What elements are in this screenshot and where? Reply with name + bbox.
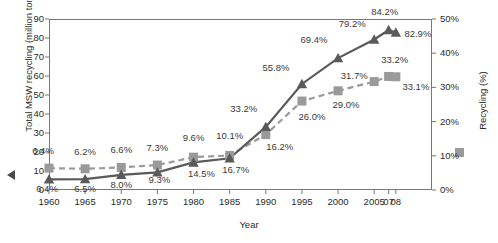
msw-recycling-data-label: 9.3% bbox=[139, 174, 179, 185]
msw-recycling-data-label: 82.9% bbox=[398, 28, 438, 39]
msw-recycling-data-label: 6.4% bbox=[27, 183, 67, 194]
msw-recycling-data-label: 55.8% bbox=[256, 62, 296, 73]
recycling-percent-data-label: 6.4% bbox=[23, 145, 63, 156]
msw-recycling-data-label: 6.5% bbox=[65, 183, 105, 194]
recycling-percent-data-label: 16.2% bbox=[260, 141, 300, 152]
msw-recycling-data-label: 8.0% bbox=[101, 179, 141, 190]
recycling-percent-data-label: 31.7% bbox=[334, 70, 374, 81]
recycling-percent-data-label: 26.0% bbox=[292, 111, 332, 122]
recycling-percent-data-label: 29.0% bbox=[326, 99, 366, 110]
recycling-percent-data-label: 6.2% bbox=[65, 146, 105, 157]
chart-figure: Total MSW recycling (million tons) Recyc… bbox=[0, 0, 498, 243]
recycling-percent-data-label: 33.2% bbox=[375, 54, 415, 65]
msw-recycling-data-label: 84.2% bbox=[365, 6, 405, 17]
recycling-percent-data-label: 33.1% bbox=[396, 81, 436, 92]
recycling-percent-data-label: 6.6% bbox=[101, 144, 141, 155]
msw-recycling-data-label: 69.4% bbox=[294, 34, 334, 45]
msw-recycling-data-label: 16.7% bbox=[216, 164, 256, 175]
msw-recycling-data-label: 79.2% bbox=[332, 18, 372, 29]
recycling-percent-data-label: 9.6% bbox=[174, 132, 214, 143]
recycling-percent-data-label: 10.1% bbox=[210, 130, 250, 141]
recycling-percent-data-label: 7.3% bbox=[137, 142, 177, 153]
msw-recycling-data-label: 33.2% bbox=[224, 103, 264, 114]
